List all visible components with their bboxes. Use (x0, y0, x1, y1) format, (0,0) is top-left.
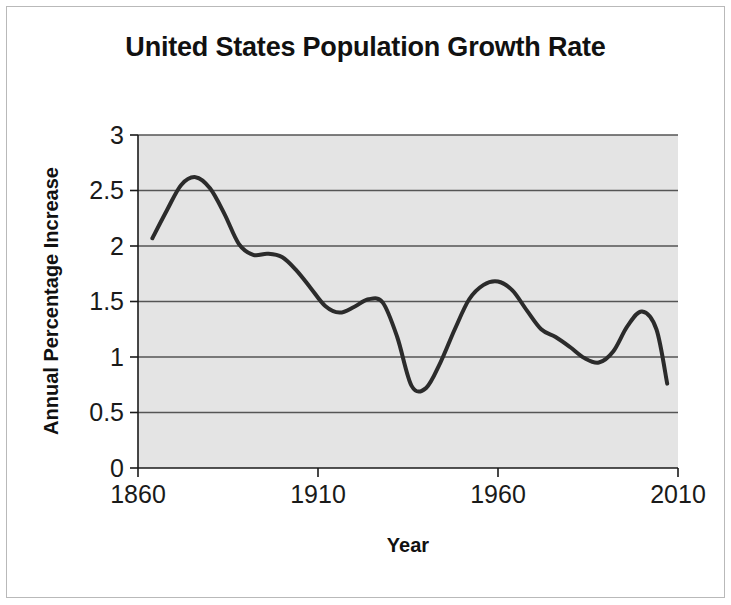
y-tick-label-1-5: 1.5 (89, 287, 124, 315)
chart-figure: United States Population Growth Rate (0, 0, 731, 605)
x-axis-title: Year (387, 534, 429, 556)
y-axis-title: Annual Percentage Increase (40, 167, 62, 435)
y-tick-label-3: 3 (110, 121, 124, 149)
y-tick-label-2: 2 (110, 232, 124, 260)
x-tick-label-1910: 1910 (290, 480, 346, 508)
y-axis-ticks (130, 135, 138, 468)
x-tick-label-2010: 2010 (650, 480, 706, 508)
y-tick-label-0-5: 0.5 (89, 398, 124, 426)
x-tick-label-1860: 1860 (110, 480, 166, 508)
y-tick-label-0: 0 (110, 454, 124, 482)
x-tick-label-1960: 1960 (470, 480, 526, 508)
x-axis-ticks (138, 468, 678, 477)
y-tick-label-1: 1 (110, 343, 124, 371)
plot-area: 3 2.5 2 1.5 1 0.5 0 1860 1910 1960 2010 … (0, 0, 731, 605)
y-tick-label-2-5: 2.5 (89, 176, 124, 204)
